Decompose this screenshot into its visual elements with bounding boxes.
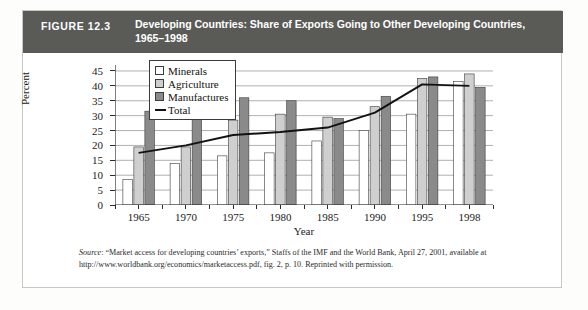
legend-swatch-manufactures-icon bbox=[155, 92, 164, 101]
y-tick-40: 40 bbox=[37, 80, 103, 91]
legend-item-total: Total bbox=[155, 103, 228, 116]
legend-item-manufactures: Manufactures bbox=[155, 90, 228, 103]
y-tick-20: 20 bbox=[37, 140, 103, 151]
x-minor-tick-mark bbox=[445, 205, 446, 209]
x-tick-1985: 1985 bbox=[317, 211, 339, 223]
y-tick-10: 10 bbox=[37, 170, 103, 181]
x-minor-tick-mark bbox=[304, 205, 305, 209]
x-minor-tick-mark bbox=[115, 205, 116, 209]
x-minor-tick-mark bbox=[209, 205, 210, 209]
x-tick-mark bbox=[280, 205, 281, 209]
y-tick-45: 45 bbox=[37, 65, 103, 76]
source-label: Source bbox=[79, 248, 101, 257]
legend-label-minerals: Minerals bbox=[168, 65, 207, 77]
page-background: FIGURE 12.3 Developing Countries: Share … bbox=[0, 0, 588, 310]
figure-number-label: FIGURE 12.3 bbox=[23, 11, 135, 32]
x-minor-tick-mark bbox=[351, 205, 352, 209]
x-axis-title: Year bbox=[115, 225, 493, 237]
y-axis-title: Percent bbox=[19, 72, 31, 105]
y-tick-30: 30 bbox=[37, 110, 103, 121]
x-tick-1998: 1998 bbox=[458, 211, 480, 223]
legend-swatch-total-line-icon bbox=[155, 105, 164, 114]
x-minor-tick-mark bbox=[398, 205, 399, 209]
x-tick-1990: 1990 bbox=[364, 211, 386, 223]
y-tick-35: 35 bbox=[37, 95, 103, 106]
legend-label-agriculture: Agriculture bbox=[168, 78, 219, 90]
legend-label-total: Total bbox=[168, 104, 190, 116]
x-tick-mark bbox=[469, 205, 470, 209]
x-minor-tick-mark bbox=[162, 205, 163, 209]
legend-item-agriculture: Agriculture bbox=[155, 77, 228, 90]
y-tick-15: 15 bbox=[37, 155, 103, 166]
y-tick-5: 5 bbox=[37, 185, 103, 196]
figure-container: FIGURE 12.3 Developing Countries: Share … bbox=[22, 10, 562, 288]
legend-item-minerals: Minerals bbox=[155, 64, 228, 77]
legend-swatch-agriculture-icon bbox=[155, 79, 164, 88]
x-tick-1970: 1970 bbox=[175, 211, 197, 223]
x-tick-1980: 1980 bbox=[269, 211, 291, 223]
y-tick-25: 25 bbox=[37, 125, 103, 136]
figure-header-bar: FIGURE 12.3 Developing Countries: Share … bbox=[23, 11, 563, 53]
x-tick-mark bbox=[185, 205, 186, 209]
x-tick-mark bbox=[233, 205, 234, 209]
x-tick-mark bbox=[422, 205, 423, 209]
x-minor-tick-mark bbox=[256, 205, 257, 209]
x-tick-mark bbox=[138, 205, 139, 209]
legend-label-manufactures: Manufactures bbox=[168, 91, 228, 103]
chart-legend: Minerals Agriculture Manufactures Total bbox=[149, 60, 236, 120]
y-tick-0: 0 bbox=[37, 200, 103, 211]
x-tick-1975: 1975 bbox=[222, 211, 244, 223]
source-note: Source: “Market access for developing co… bbox=[79, 247, 531, 270]
x-tick-mark bbox=[327, 205, 328, 209]
x-tick-mark bbox=[374, 205, 375, 209]
figure-title: Developing Countries: Share of Exports G… bbox=[135, 11, 563, 45]
chart-area: Percent 051015202530354045 1965197019751… bbox=[23, 53, 563, 243]
legend-swatch-minerals-icon bbox=[155, 66, 164, 75]
x-tick-1995: 1995 bbox=[411, 211, 433, 223]
x-minor-tick-mark bbox=[493, 205, 494, 209]
x-tick-1965: 1965 bbox=[128, 211, 150, 223]
source-text: : “Market access for developing countrie… bbox=[79, 248, 486, 269]
